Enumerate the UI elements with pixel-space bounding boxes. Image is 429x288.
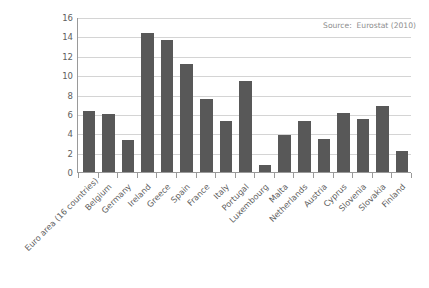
bar[interactable] xyxy=(318,139,331,172)
x-tick xyxy=(313,173,314,178)
bar-slot xyxy=(79,18,99,172)
bar-slot xyxy=(197,18,217,172)
bar-slot xyxy=(275,18,295,172)
x-tick xyxy=(78,173,79,178)
y-axis: 0246810121416 xyxy=(50,18,73,173)
bar-slot xyxy=(236,18,256,172)
bar-slot xyxy=(373,18,393,172)
bar-slot xyxy=(138,18,158,172)
bar-chart-figure: 0246810121416 Euro area (16 countries)Be… xyxy=(0,0,429,288)
bar[interactable] xyxy=(220,121,233,172)
bar-slot xyxy=(294,18,314,172)
x-tick xyxy=(391,173,392,178)
x-tick xyxy=(196,173,197,178)
bar[interactable] xyxy=(83,111,96,172)
bar[interactable] xyxy=(200,99,213,172)
y-tick-label: 4 xyxy=(68,130,73,139)
bar-slot xyxy=(216,18,236,172)
bar[interactable] xyxy=(337,113,350,172)
x-tick xyxy=(176,173,177,178)
bar-slot xyxy=(392,18,412,172)
bar[interactable] xyxy=(298,121,311,172)
bar[interactable] xyxy=(259,165,272,172)
bar[interactable] xyxy=(239,81,252,172)
x-tick xyxy=(254,173,255,178)
x-tick xyxy=(156,173,157,178)
bar-slot xyxy=(314,18,334,172)
bar[interactable] xyxy=(278,135,291,172)
y-tick-label: 12 xyxy=(62,52,73,61)
bars-group xyxy=(79,18,411,172)
x-tick xyxy=(235,173,236,178)
y-tick-label: 6 xyxy=(68,110,73,119)
bar[interactable] xyxy=(141,33,154,172)
x-tick xyxy=(274,173,275,178)
x-tick xyxy=(333,173,334,178)
x-tick xyxy=(117,173,118,178)
bar[interactable] xyxy=(357,119,370,172)
plot-area xyxy=(77,18,411,173)
x-tick xyxy=(137,173,138,178)
y-tick-label: 0 xyxy=(68,169,73,178)
x-tick xyxy=(372,173,373,178)
bar-slot xyxy=(177,18,197,172)
x-tick xyxy=(411,173,412,178)
bar-slot xyxy=(334,18,354,172)
y-tick-label: 2 xyxy=(68,149,73,158)
bar-slot xyxy=(353,18,373,172)
x-tick xyxy=(215,173,216,178)
x-tick xyxy=(293,173,294,178)
bar[interactable] xyxy=(180,64,193,173)
bar[interactable] xyxy=(396,151,409,172)
y-tick-label: 8 xyxy=(68,91,73,100)
bar-slot xyxy=(157,18,177,172)
bar[interactable] xyxy=(102,114,115,172)
bar-slot xyxy=(255,18,275,172)
bar[interactable] xyxy=(122,140,135,172)
x-tick xyxy=(352,173,353,178)
bar[interactable] xyxy=(376,106,389,172)
y-tick-label: 14 xyxy=(62,33,73,42)
bar-slot xyxy=(99,18,119,172)
bar[interactable] xyxy=(161,40,174,172)
source-annotation: Source: Eurostat (2010) xyxy=(323,21,416,31)
x-axis-ticks xyxy=(78,173,411,178)
x-tick xyxy=(98,173,99,178)
y-tick-label: 10 xyxy=(62,72,73,81)
bar-slot xyxy=(118,18,138,172)
y-tick-label: 16 xyxy=(62,14,73,23)
